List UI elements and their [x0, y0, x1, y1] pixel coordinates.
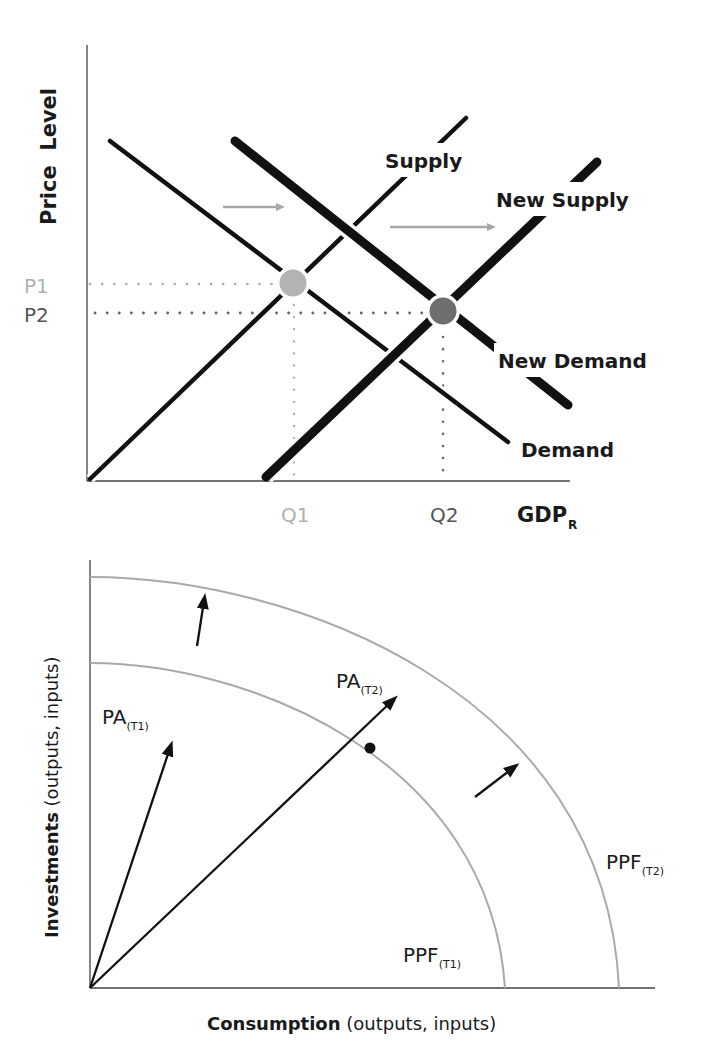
x-axis-label: GDPR: [517, 503, 577, 532]
y-axis-label: Price Level: [37, 88, 61, 225]
ppf-t2-label: PPF(T2): [606, 850, 664, 878]
pa-t2-vector: [90, 701, 392, 988]
tick-p2: P2: [24, 303, 49, 327]
ppf-shift-up-arrow-icon: [197, 601, 204, 646]
tick-q1: Q1: [281, 503, 309, 527]
label-new-supply: New Supply: [496, 188, 629, 212]
ppf-x-axis-label: Consumption (outputs, inputs): [207, 1013, 496, 1034]
pa-t1-label: PA(T1): [102, 705, 149, 733]
diagram-canvas: Price Level P1 P2 Q1 Q2 GDPR Supply New …: [0, 0, 716, 1055]
tick-p1: P1: [24, 274, 49, 298]
ppf-t1-curve: [90, 663, 505, 988]
pa-t1-vector: [90, 748, 170, 988]
label-new-demand: New Demand: [498, 349, 647, 373]
label-supply: Supply: [385, 149, 462, 173]
ppf-t2-curve: [90, 577, 619, 988]
ad-as-chart: Price Level P1 P2 Q1 Q2 GDPR Supply New …: [24, 45, 647, 532]
pa-t2-point: [365, 743, 376, 754]
ppf-shift-diagonal-arrow-icon: [475, 768, 513, 797]
tick-q2: Q2: [430, 503, 458, 527]
label-demand: Demand: [521, 438, 614, 462]
ppf-chart: PA(T1) PA(T2) PPF(T1) PPF(T2) Investment…: [41, 560, 664, 1034]
ppf-t1-label: PPF(T1): [403, 943, 461, 971]
ppf-y-axis-label: Investments (outputs, inputs): [41, 656, 62, 938]
pa-t2-label: PA(T2): [336, 669, 383, 697]
